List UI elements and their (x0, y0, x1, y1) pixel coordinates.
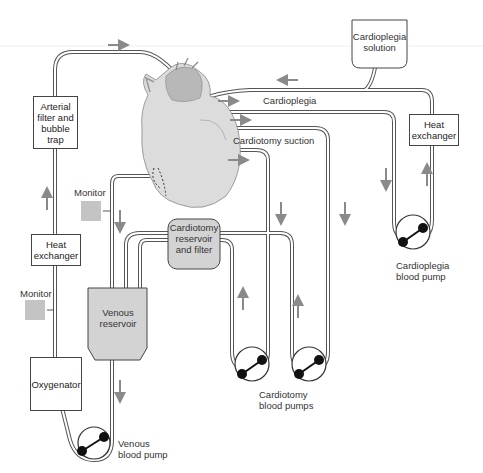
roller-pump-icon (396, 215, 430, 249)
monitor-square-icon (25, 300, 45, 320)
label-line: Cardiotomy (259, 389, 313, 400)
label-line: Heat (424, 119, 444, 130)
label-line: reservoir (166, 233, 222, 244)
label-line: trap (47, 134, 63, 145)
label-line: Cardiotomy (166, 222, 222, 233)
label-line: blood pump (396, 271, 449, 282)
monitor-lower-label: Monitor (20, 288, 52, 299)
oxygenator-box: Oxygenator (30, 357, 82, 411)
label-line: and filter (166, 244, 222, 255)
roller-pump-icon (235, 347, 269, 381)
label-line: solution (352, 42, 407, 53)
heat-exchanger-right-box: Heat exchanger (409, 114, 459, 146)
venous-pump-label: Venous blood pump (118, 438, 168, 460)
cardioplegia-pump-label: Cardioplegia blood pump (396, 260, 449, 282)
venous-reservoir-label: Venous reservoir (92, 307, 144, 329)
label-line: blood pump (118, 449, 168, 460)
label-line: Arterial (40, 101, 70, 112)
label-line: reservoir (92, 318, 144, 329)
label-line: Cardioplegia (352, 31, 407, 42)
cardioplegia-solution-label: Cardioplegia solution (352, 31, 407, 53)
label-line: filter and (37, 112, 73, 123)
label-line: bubble (41, 123, 70, 134)
oxygenator-label: Oxygenator (31, 379, 80, 390)
roller-pump-icon (77, 427, 110, 459)
label-line: Heat (46, 239, 66, 250)
cardiotomy-pumps-label: Cardiotomy blood pumps (259, 389, 313, 411)
label-line: Venous (92, 307, 144, 318)
cardiotomy-suction-label: Cardiotomy suction (233, 135, 314, 146)
label-line: exchanger (412, 130, 456, 141)
label-line: exchanger (34, 250, 78, 261)
label-line: Cardioplegia (396, 260, 449, 271)
arterial-filter-box: Arterial filter and bubble trap (33, 96, 78, 149)
cardioplegia-line-label: Cardioplegia (263, 95, 316, 106)
monitor-upper-label: Monitor (74, 187, 106, 198)
cardiotomy-reservoir-label: Cardiotomy reservoir and filter (166, 222, 222, 255)
label-line: Venous (118, 438, 168, 449)
label-line: blood pumps (259, 400, 313, 411)
roller-pump-icon (292, 347, 326, 381)
monitor-square-icon (81, 201, 101, 221)
heart-illustration (142, 58, 241, 208)
heat-exchanger-left-box: Heat exchanger (31, 234, 81, 266)
